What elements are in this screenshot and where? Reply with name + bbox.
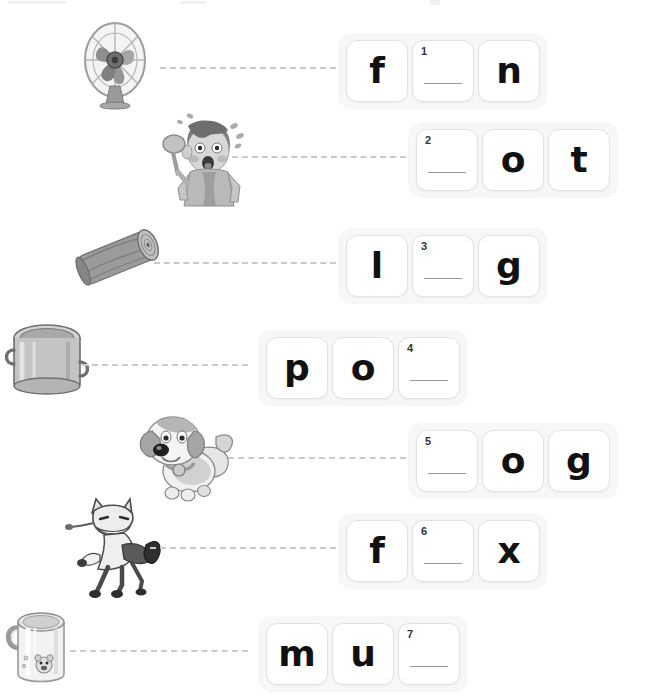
blank-number: 4 (407, 343, 413, 354)
letter-box-group: l 3 g (338, 228, 548, 304)
row-connector (160, 67, 336, 69)
blank-rule (410, 666, 448, 667)
letter-box-group: 2 o t (408, 122, 618, 198)
log-icon (66, 216, 166, 302)
blank-letter-box[interactable]: 4 (398, 337, 460, 399)
letter-glyph: p (284, 350, 310, 386)
worksheet-row: p o 4 (0, 312, 658, 412)
worksheet-page: f 1 n (0, 0, 658, 695)
row-connector (232, 156, 406, 158)
letter-glyph: f (369, 53, 385, 89)
letter-box-group: f 1 n (338, 33, 548, 109)
worksheet-row: l 3 g (0, 216, 658, 316)
blank-rule (424, 563, 462, 564)
blank-letter-box[interactable]: 1 (412, 40, 474, 102)
letter-glyph: o (501, 142, 526, 178)
letter-box: o (332, 337, 394, 399)
blank-number: 2 (425, 135, 431, 146)
fox-icon (56, 497, 168, 601)
letter-glyph: o (501, 443, 526, 479)
letter-box-group: p o 4 (258, 330, 468, 406)
letter-glyph: x (497, 533, 520, 569)
row-connector (82, 364, 248, 366)
page-top-remnant (0, 0, 658, 6)
blank-rule (428, 473, 466, 474)
letter-box: p (266, 337, 328, 399)
worksheet-row: f 1 n (0, 14, 658, 114)
blank-rule (424, 83, 462, 84)
row-connector (228, 457, 406, 459)
blank-number: 1 (421, 46, 427, 57)
letter-box: g (478, 235, 540, 297)
letter-glyph: l (371, 248, 383, 284)
blank-letter-box[interactable]: 6 (412, 520, 474, 582)
letter-box: o (482, 430, 544, 492)
letter-glyph: m (278, 636, 316, 672)
pot-icon (2, 316, 90, 406)
letter-glyph: f (369, 533, 385, 569)
letter-box: f (346, 520, 408, 582)
blank-rule (424, 278, 462, 279)
blank-number: 5 (425, 436, 431, 447)
blank-letter-box[interactable]: 2 (416, 129, 478, 191)
blank-number: 3 (421, 241, 427, 252)
letter-box: o (482, 129, 544, 191)
letter-box: u (332, 623, 394, 685)
letter-box-group: 5 o g (408, 423, 618, 499)
letter-box-group: m u 7 (258, 616, 468, 692)
letter-glyph: g (496, 248, 522, 284)
letter-box: x (478, 520, 540, 582)
letter-glyph: g (566, 443, 592, 479)
letter-glyph: u (350, 636, 376, 672)
letter-box-group: f 6 x (338, 513, 548, 589)
letter-box: l (346, 235, 408, 297)
hot-boy-icon (150, 110, 250, 210)
dog-icon (132, 407, 242, 503)
worksheet-row: f 6 x (0, 495, 658, 600)
letter-box: m (266, 623, 328, 685)
blank-rule (428, 172, 466, 173)
worksheet-row: 5 o g (0, 405, 658, 505)
blank-number: 7 (407, 629, 413, 640)
letter-box: g (548, 430, 610, 492)
row-connector (70, 650, 248, 652)
mug-icon (2, 602, 76, 694)
letter-box: n (478, 40, 540, 102)
blank-letter-box[interactable]: 7 (398, 623, 460, 685)
fan-icon (76, 20, 154, 116)
worksheet-row: m u 7 (0, 600, 658, 695)
blank-letter-box[interactable]: 5 (416, 430, 478, 492)
blank-letter-box[interactable]: 3 (412, 235, 474, 297)
letter-box: f (346, 40, 408, 102)
worksheet-row: 2 o t (0, 110, 658, 210)
blank-rule (410, 380, 448, 381)
letter-glyph: t (570, 142, 587, 178)
blank-number: 6 (421, 526, 427, 537)
letter-glyph: n (496, 53, 522, 89)
row-connector (150, 547, 336, 549)
letter-box: t (548, 129, 610, 191)
letter-glyph: o (351, 350, 376, 386)
row-connector (154, 262, 336, 264)
